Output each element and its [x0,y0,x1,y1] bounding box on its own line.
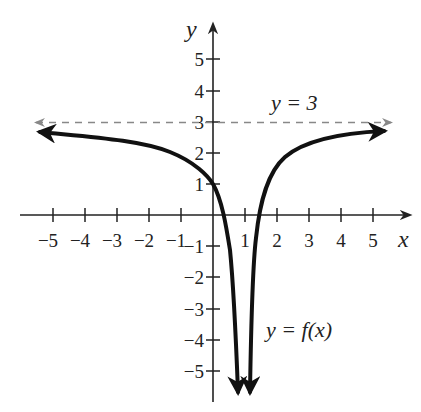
y-tick-label: 1 [195,174,205,195]
function-label: y = f(x) [264,317,332,342]
graph-canvas: −5 −4 −3 −2 −1 1 2 3 4 5 5 4 3 2 1 −1 −2… [0,0,421,412]
y-tick-label: −4 [184,330,205,351]
curve-right-branch [250,131,384,392]
asymptote-label: y = 3 [269,90,318,115]
x-tick-label: −5 [38,230,58,251]
y-tick-label: −5 [184,361,204,382]
y-tick-label: 4 [195,81,205,102]
x-tick-labels: −5 −4 −3 −2 −1 1 2 3 4 5 [38,230,378,251]
y-tick-label: −2 [184,267,204,288]
x-tick-label: 4 [336,230,346,251]
x-tick-label: −4 [70,230,91,251]
x-tick-label: −2 [134,230,154,251]
x-tick-label: 3 [304,230,314,251]
curve-left-branch [40,132,238,392]
x-tick-label: −3 [102,230,122,251]
x-tick-label: 5 [368,230,378,251]
x-tick-label: 1 [240,230,250,251]
x-tick-label: 2 [272,230,282,251]
y-tick-label: 5 [195,49,205,70]
x-axis-label: x [397,226,409,252]
y-tick-label: −3 [184,299,204,320]
y-tick-label: −1 [184,236,204,257]
y-axis-label: y [184,16,197,42]
y-tick-label: 2 [195,143,205,164]
